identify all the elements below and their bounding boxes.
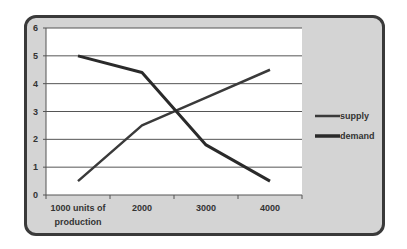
x-axis: 1000 units ofproduction200030004000 (46, 195, 302, 227)
legend-item-supply: supply (315, 111, 369, 121)
y-tick-label: 1 (33, 162, 38, 172)
legend-label-demand: demand (340, 131, 375, 141)
y-axis: 0123456 (33, 23, 46, 200)
x-tick-label: 3000 (196, 203, 216, 213)
legend: supply demand (315, 111, 375, 141)
x-tick-label: 2000 (132, 203, 152, 213)
y-tick-label: 3 (33, 107, 38, 117)
y-tick-label: 6 (33, 23, 38, 33)
x-tick-label: 4000 (260, 203, 280, 213)
y-tick-label: 4 (33, 79, 38, 89)
legend-item-demand: demand (315, 131, 375, 141)
legend-label-supply: supply (340, 111, 369, 121)
y-tick-label: 2 (33, 134, 38, 144)
line-chart: 0123456 1000 units ofproduction200030004… (0, 0, 407, 249)
x-tick-label: 1000 units ofproduction (50, 203, 106, 227)
y-tick-label: 5 (33, 51, 38, 61)
y-tick-label: 0 (33, 190, 38, 200)
